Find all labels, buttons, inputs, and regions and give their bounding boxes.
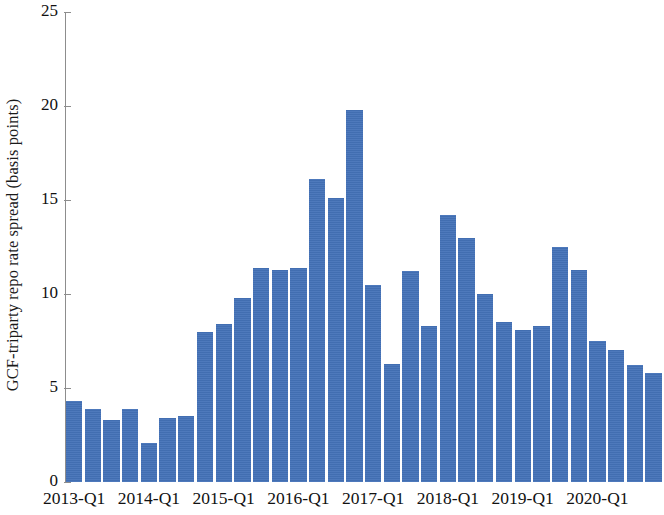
y-axis-tick-label: 15	[18, 189, 58, 209]
x-axis-tick-label: 2019-Q1	[492, 486, 554, 510]
bar	[458, 238, 474, 482]
bar	[608, 350, 624, 482]
bar	[589, 341, 605, 482]
x-axis-tick-label: 2018-Q1	[417, 486, 479, 510]
x-axis-ticks: 2013-Q12014-Q12015-Q12016-Q12017-Q12018-…	[0, 486, 664, 515]
bar	[365, 285, 381, 482]
bar	[66, 401, 82, 482]
bar	[346, 110, 362, 482]
bar	[290, 268, 306, 482]
x-axis-tick-label: 2015-Q1	[193, 486, 255, 510]
y-axis-tick-label: 5	[18, 377, 58, 397]
bar	[645, 373, 661, 482]
bar	[552, 247, 568, 482]
bar	[421, 326, 437, 482]
bar	[533, 326, 549, 482]
bar	[384, 364, 400, 482]
bar	[216, 324, 232, 482]
bar	[328, 198, 344, 482]
bar	[515, 330, 531, 482]
bar	[141, 443, 157, 482]
bar	[627, 365, 643, 482]
bar	[197, 332, 213, 482]
plot-area	[66, 12, 664, 482]
bar	[272, 270, 288, 482]
bar	[122, 409, 138, 482]
bar	[103, 420, 119, 482]
bar	[309, 179, 325, 482]
bar	[253, 268, 269, 482]
bar	[496, 322, 512, 482]
x-axis-tick-label: 2016-Q1	[267, 486, 329, 510]
bar	[571, 270, 587, 482]
x-axis-tick-label: 2020-Q1	[566, 486, 628, 510]
bar	[440, 215, 456, 482]
x-axis-tick-label: 2013-Q1	[43, 486, 105, 510]
bar	[234, 298, 250, 482]
bar	[477, 294, 493, 482]
x-axis-tick-label: 2017-Q1	[342, 486, 404, 510]
bar	[85, 409, 101, 482]
y-axis-tick-label: 25	[18, 1, 58, 21]
y-axis-tick-label: 20	[18, 95, 58, 115]
x-axis-tick-label: 2014-Q1	[118, 486, 180, 510]
bar-chart-figure: GCF-triparty repo rate spread (basis poi…	[0, 0, 664, 515]
bar	[402, 271, 418, 482]
bar	[159, 418, 175, 482]
y-axis-tick-label: 10	[18, 283, 58, 303]
bar	[178, 416, 194, 482]
